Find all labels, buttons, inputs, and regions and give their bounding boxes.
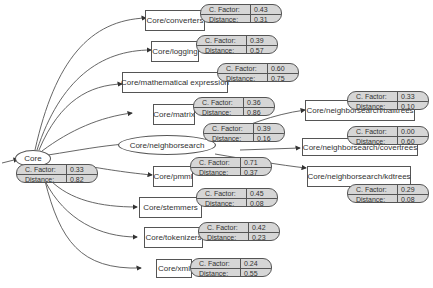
node-pmml[interactable]: Core/pmml	[153, 166, 193, 187]
edge-xml	[45, 181, 141, 268]
metrics-converters: C. Factor:0.43 Distance:0.31	[200, 4, 282, 23]
metrics-pmml: C. Factor:0.71 Distance:0.37	[190, 157, 272, 176]
edge-stemmers	[50, 180, 137, 207]
metrics-xml: C. Factor:0.24 Distance:0.55	[190, 258, 272, 277]
metrics-tokenizers: C. Factor:0.42 Distance:0.23	[198, 222, 280, 241]
edge-neighborsearch	[48, 144, 125, 155]
metrics-neighborsearch: C. Factor:0.39 Distance:0.16	[203, 123, 285, 142]
node-logging[interactable]: Core/logging	[151, 41, 199, 62]
node-neighborsearch[interactable]: Core/neighborsearch	[118, 135, 216, 155]
node-label: Core	[24, 154, 41, 163]
edge-tokenizers	[45, 181, 137, 237]
metrics-mathematical-expression: C. Factor:0.60 Distance:0.75	[217, 63, 299, 82]
metrics-kdtrees: C. Factor:0.29 Distance:0.08	[347, 184, 429, 203]
node-xml[interactable]: Core/xml	[156, 259, 192, 278]
metrics-balltrees: C. Factor:0.33 Distance:0.10	[347, 91, 429, 110]
metrics-covertrees: C. Factor:0.00 Distance:0.60	[347, 126, 429, 145]
node-mathematical-expression[interactable]: Core/mathematical expression	[122, 72, 228, 93]
edge-covertrees	[240, 148, 300, 150]
node-matrix[interactable]: Core/matrix	[153, 104, 195, 125]
node-stemmers[interactable]: Core/stemmers	[139, 197, 202, 218]
metrics-logging: C. Factor:0.39 Distance:0.57	[196, 35, 278, 54]
edge-logging	[37, 50, 151, 150]
metrics-matrix: C. Factor:0.36 Distance:0.86	[193, 97, 275, 116]
metrics-stemmers: C. Factor:0.45 Distance:0.08	[196, 188, 278, 207]
node-tokenizers[interactable]: Core/tokenizers	[144, 227, 203, 248]
metrics-core: C. Factor:0.33 Distance:0.82	[16, 164, 98, 183]
node-converters[interactable]: Core/converters	[145, 10, 205, 31]
